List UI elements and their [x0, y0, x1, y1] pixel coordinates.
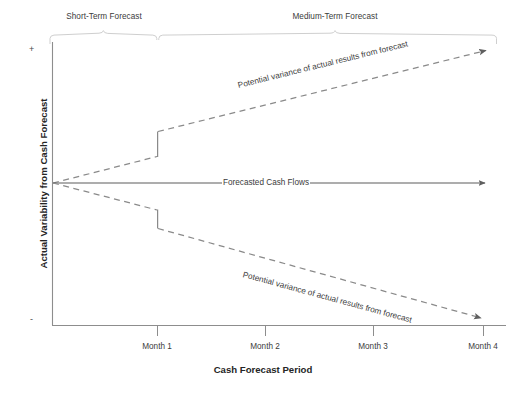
- series-variance-lower: [53, 183, 481, 318]
- x-tick-label-month-1: Month 1: [122, 342, 192, 351]
- x-tick-label-month-2: Month 2: [230, 342, 300, 351]
- series-label-forecasted-cash-flows: Forecasted Cash Flows: [222, 178, 310, 188]
- y-axis-title: Actual Variability from Cash Forecast: [38, 79, 49, 289]
- brace-label-short-term: Short-Term Forecast: [59, 12, 149, 21]
- y-axis-negative-marker: -: [30, 314, 33, 324]
- x-tick-label-month-3: Month 3: [338, 342, 408, 351]
- y-axis-positive-marker: +: [29, 44, 34, 54]
- brace-short-term: [50, 31, 157, 44]
- chart-plot-area: [0, 0, 526, 395]
- brace-medium-term: [159, 31, 497, 44]
- x-axis-title: Cash Forecast Period: [0, 364, 526, 375]
- chart-canvas: Short-Term Forecast Medium-Term Forecast…: [0, 0, 526, 395]
- x-tick-label-month-4: Month 4: [448, 342, 518, 351]
- brace-label-medium-term: Medium-Term Forecast: [280, 12, 390, 21]
- series-variance-upper: [53, 51, 486, 184]
- x-axis-ticks: [158, 326, 484, 337]
